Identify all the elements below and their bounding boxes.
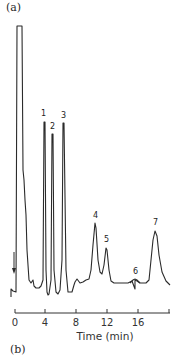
x-axis-title: Time (min) <box>75 330 133 342</box>
x-axis-ticks <box>15 309 169 313</box>
arrow-down-icon <box>12 268 16 274</box>
x-tick-label-12: 12 <box>101 317 114 328</box>
x-tick-label-8: 8 <box>73 317 79 328</box>
peak-label-2: 2 <box>50 122 55 131</box>
peak-label-3: 3 <box>61 111 66 120</box>
chromatogram-chart: 1 2 3 4 5 6 7 0 4 8 12 16 Time (min) <box>0 0 183 358</box>
x-tick-label-4: 4 <box>42 317 48 328</box>
peak-label-4: 4 <box>93 211 98 220</box>
x-tick-label-0: 0 <box>12 317 18 328</box>
x-tick-label-16: 16 <box>132 317 145 328</box>
peak-label-6: 6 <box>133 267 138 276</box>
peak-label-7: 7 <box>153 218 158 227</box>
chromatogram-trace <box>11 26 170 297</box>
peak-label-5: 5 <box>104 235 109 244</box>
panel-label-b: (b) <box>10 343 26 356</box>
peak-label-1: 1 <box>41 109 46 118</box>
